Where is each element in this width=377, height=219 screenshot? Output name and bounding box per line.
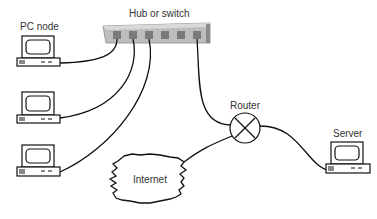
router-icon <box>230 113 260 143</box>
cable-pc2-hub <box>60 39 134 118</box>
pc-node-label: PC node <box>20 21 59 32</box>
cable-hub-router <box>197 39 231 125</box>
hub-label: Hub or switch <box>129 8 190 19</box>
pc-node-3 <box>17 145 60 176</box>
pc-node-2 <box>17 92 60 123</box>
server-icon <box>326 142 370 173</box>
network-diagram <box>0 0 377 219</box>
server-label: Server <box>333 128 362 139</box>
router-label: Router <box>230 100 260 111</box>
pc-node-1 <box>17 36 60 66</box>
hub-switch <box>103 23 210 43</box>
cable-router-internet <box>184 136 232 162</box>
internet-label: Internet <box>133 174 167 185</box>
cables <box>60 39 330 172</box>
cable-pc3-hub <box>60 39 151 172</box>
cable-router-server <box>259 126 330 171</box>
